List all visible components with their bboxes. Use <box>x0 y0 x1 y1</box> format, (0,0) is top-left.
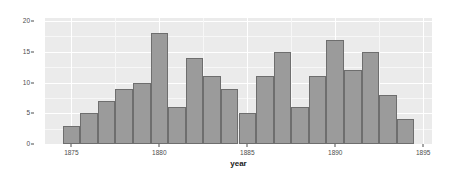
x-tick-label: 1880 <box>152 150 166 157</box>
y-tick-label: 15 <box>23 49 30 56</box>
x-tick-label: 1895 <box>416 150 430 157</box>
x-axis-title: year <box>45 160 432 168</box>
y-tick-label: 5 <box>26 110 30 117</box>
bar <box>291 107 309 144</box>
bar <box>379 95 397 144</box>
bar <box>362 52 380 144</box>
bar <box>203 76 221 144</box>
plot-panel <box>45 18 432 144</box>
x-tick-label: 1885 <box>240 150 254 157</box>
x-tick-mark <box>71 144 72 147</box>
x-tick-mark <box>247 144 248 147</box>
bar <box>168 107 186 144</box>
y-axis-tick-labels: 05101520 <box>0 18 36 144</box>
x-tick-mark <box>423 144 424 147</box>
x-tick-mark <box>335 144 336 147</box>
bar <box>274 52 292 144</box>
bar <box>151 33 169 144</box>
bar <box>309 76 327 144</box>
y-tick-mark <box>31 21 34 22</box>
bar <box>326 40 344 144</box>
bar <box>397 119 415 144</box>
bar <box>98 101 116 144</box>
y-tick-mark <box>31 82 34 83</box>
bar <box>80 113 98 144</box>
bar-chart-figure: 05101520 18751880188518901895 year total… <box>0 0 452 184</box>
x-tick-mark <box>159 144 160 147</box>
y-tick-label: 0 <box>26 141 30 148</box>
bar <box>186 58 204 144</box>
bar <box>239 113 257 144</box>
y-tick-label: 10 <box>23 79 30 86</box>
bar-series <box>45 18 432 144</box>
bar <box>115 89 133 144</box>
x-tick-label: 1875 <box>64 150 78 157</box>
bar <box>133 83 151 144</box>
x-axis-tick-labels: 18751880188518901895 <box>45 144 432 160</box>
x-tick-label: 1890 <box>328 150 342 157</box>
y-tick-mark <box>31 144 34 145</box>
y-tick-mark <box>31 51 34 52</box>
y-tick-label: 20 <box>23 18 30 25</box>
bar <box>344 70 362 144</box>
bar <box>256 76 274 144</box>
bar <box>221 89 239 144</box>
y-tick-mark <box>31 113 34 114</box>
bar <box>63 126 81 144</box>
